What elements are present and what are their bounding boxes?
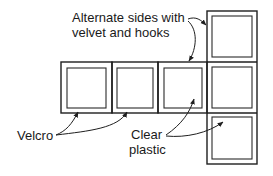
arrow-icon [56, 112, 78, 135]
arrow-icon [166, 122, 223, 136]
panel-row [61, 62, 207, 113]
panel-row-1 [61, 62, 112, 113]
velcro-label: Velcro [17, 128, 53, 143]
column-outer-frame [207, 11, 257, 164]
panel-col-top [212, 16, 252, 57]
clear-plastic-window [117, 68, 153, 108]
cube-net-diagram: Alternate sides with velvet and hooks Ve… [0, 0, 273, 176]
clear-plastic-label-line2: plastic [129, 142, 166, 157]
clear-plastic-label-line1: Clear [131, 127, 163, 142]
panel-col-bottom [212, 117, 252, 159]
panel-row-2 [112, 62, 158, 113]
clear-plastic-window [212, 67, 252, 108]
clear-plastic-window [212, 117, 252, 159]
panel-column [207, 11, 257, 164]
alternate-sides-label-line2: velvet and hooks [72, 25, 170, 40]
alternate-sides-annotation: Alternate sides with velvet and hooks [72, 10, 206, 61]
arrow-icon [166, 99, 194, 135]
panel-col-middle [212, 67, 252, 108]
clear-plastic-window [212, 16, 252, 57]
clear-plastic-window [164, 68, 202, 108]
panel-row-3 [158, 62, 207, 113]
alternate-sides-label-line1: Alternate sides with [72, 10, 185, 25]
clear-plastic-window [67, 68, 106, 108]
arrow-icon [56, 112, 127, 135]
velcro-annotation: Velcro [17, 112, 127, 143]
arrow-icon [188, 21, 195, 61]
